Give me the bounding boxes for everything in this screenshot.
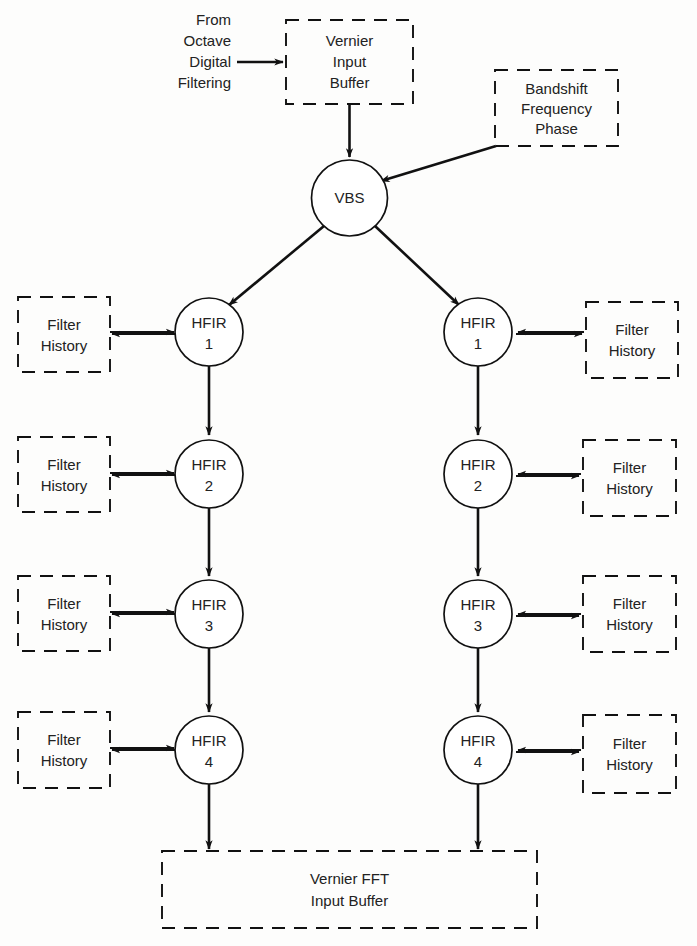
right-filter-history-2-line-2: History: [606, 480, 653, 497]
right-stage-2: HFIR 2 Filter History: [444, 440, 676, 516]
right-hfir-3-name: HFIR: [461, 596, 496, 613]
left-hfir-2-name: HFIR: [192, 456, 227, 473]
right-hfir-4-index: 4: [474, 753, 482, 770]
arrow-vbs-to-right-hfir-1: [375, 226, 459, 305]
source-label-line-4: Filtering: [178, 74, 231, 91]
left-hfir-1-name: HFIR: [192, 314, 227, 331]
right-hfir-4-circle: [444, 716, 512, 784]
left-filter-history-4-line-2: History: [41, 752, 88, 769]
right-filter-history-1-line-1: Filter: [615, 321, 648, 338]
right-hfir-1-circle: [444, 298, 512, 366]
source-label-line-1: From: [196, 11, 231, 28]
vernier-input-buffer-line-3: Buffer: [330, 74, 370, 91]
block-diagram: From Octave Digital Filtering Vernier In…: [0, 0, 697, 946]
left-hfir-3-name: HFIR: [192, 596, 227, 613]
right-filter-history-2-line-1: Filter: [613, 459, 646, 476]
left-stage-4: Filter History HFIR 4: [18, 712, 243, 788]
vernier-fft-input-buffer-outline: [162, 851, 537, 928]
source-label-line-3: Digital: [189, 53, 231, 70]
source-label: From Octave Digital Filtering: [178, 11, 231, 91]
left-filter-history-3-line-1: Filter: [47, 595, 80, 612]
vernier-input-buffer-line-1: Vernier: [326, 32, 374, 49]
left-hfir-1-index: 1: [205, 335, 213, 352]
vernier-fft-input-buffer-line-1: Vernier FFT: [310, 870, 389, 887]
right-hfir-4-name: HFIR: [461, 732, 496, 749]
vernier-input-buffer-box: Vernier Input Buffer: [286, 20, 413, 104]
arrow-vbs-to-left-hfir-1: [229, 226, 324, 305]
vernier-input-buffer-line-2: Input: [333, 53, 367, 70]
vbs-label: VBS: [334, 189, 364, 206]
left-stage-2: Filter History HFIR 2: [18, 437, 243, 512]
left-hfir-4-circle: [175, 716, 243, 784]
source-label-line-2: Octave: [183, 32, 231, 49]
bandshift-box: Bandshift Frequency Phase: [495, 70, 618, 146]
left-filter-history-2-outline: [18, 437, 110, 512]
left-filter-history-4-outline: [18, 712, 110, 788]
left-stage-1: Filter History HFIR 1: [18, 297, 243, 372]
right-hfir-2-circle: [444, 440, 512, 508]
left-hfir-4-index: 4: [205, 753, 213, 770]
vernier-fft-input-buffer-line-2: Input Buffer: [311, 892, 388, 909]
bandshift-line-3: Phase: [535, 120, 578, 137]
left-filter-history-2-line-1: Filter: [47, 456, 80, 473]
right-hfir-2-name: HFIR: [461, 456, 496, 473]
left-filter-history-1-line-1: Filter: [47, 316, 80, 333]
right-hfir-1-name: HFIR: [461, 314, 496, 331]
left-filter-history-4-line-1: Filter: [47, 731, 80, 748]
right-filter-history-1-outline: [586, 302, 678, 378]
right-filter-history-3-line-2: History: [606, 616, 653, 633]
right-hfir-1-index: 1: [474, 335, 482, 352]
left-hfir-3-index: 3: [205, 617, 213, 634]
right-stage-3: HFIR 3 Filter History: [444, 576, 676, 652]
right-filter-history-1-line-2: History: [609, 342, 656, 359]
right-filter-history-4-outline: [583, 715, 676, 793]
vernier-fft-input-buffer-box: Vernier FFT Input Buffer: [162, 851, 537, 928]
left-filter-history-2-line-2: History: [41, 477, 88, 494]
diagram-canvas: From Octave Digital Filtering Vernier In…: [0, 0, 697, 946]
left-stage-3: Filter History HFIR 3: [18, 576, 243, 651]
right-stage-4: HFIR 4 Filter History: [444, 715, 676, 793]
bandshift-line-1: Bandshift: [525, 80, 588, 97]
right-filter-history-4-line-2: History: [606, 756, 653, 773]
right-hfir-3-circle: [444, 580, 512, 648]
right-hfir-3-index: 3: [474, 617, 482, 634]
right-filter-history-4-line-1: Filter: [613, 735, 646, 752]
right-filter-history-3-outline: [583, 576, 676, 652]
right-filter-history-2-outline: [583, 440, 676, 516]
left-hfir-2-index: 2: [205, 477, 213, 494]
bandshift-line-2: Frequency: [521, 100, 592, 117]
arrow-bandshift-to-vbs: [381, 146, 496, 181]
left-filter-history-1-outline: [18, 297, 110, 372]
right-hfir-2-index: 2: [474, 477, 482, 494]
right-filter-history-3-line-1: Filter: [613, 595, 646, 612]
left-filter-history-3-outline: [18, 576, 110, 651]
left-hfir-1-circle: [175, 298, 243, 366]
left-hfir-4-name: HFIR: [192, 732, 227, 749]
left-filter-history-3-line-2: History: [41, 616, 88, 633]
left-hfir-3-circle: [175, 580, 243, 648]
left-hfir-2-circle: [175, 440, 243, 508]
left-filter-history-1-line-2: History: [41, 337, 88, 354]
node-vbs: VBS: [312, 160, 388, 236]
